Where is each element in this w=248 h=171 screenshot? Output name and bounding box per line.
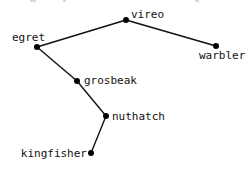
node-egret: [34, 44, 40, 50]
node-label-kingfisher: kingfisher: [21, 147, 88, 160]
edge-vireo-egret: [37, 20, 126, 47]
node-label-nuthatch: nuthatch: [112, 110, 165, 123]
labels-layer: vireoegretwarblergrosbeaknuthatchkingfis…: [12, 8, 246, 160]
edge-nuthatch-kingfisher: [91, 116, 106, 153]
edge-egret-grosbeak: [37, 47, 77, 81]
node-grosbeak: [74, 78, 80, 84]
node-kingfisher: [88, 150, 94, 156]
node-label-grosbeak: grosbeak: [84, 74, 137, 87]
node-label-egret: egret: [12, 31, 45, 44]
tree-diagram: vireoegretwarblergrosbeaknuthatchkingfis…: [0, 0, 248, 171]
node-label-vireo: vireo: [131, 8, 164, 21]
diagram-canvas: vireoegretwarblergrosbeaknuthatchkingfis…: [0, 0, 248, 171]
edge-vireo-warbler: [126, 20, 216, 46]
node-nuthatch: [103, 113, 109, 119]
node-label-warbler: warbler: [199, 49, 246, 62]
node-vireo: [123, 17, 129, 23]
